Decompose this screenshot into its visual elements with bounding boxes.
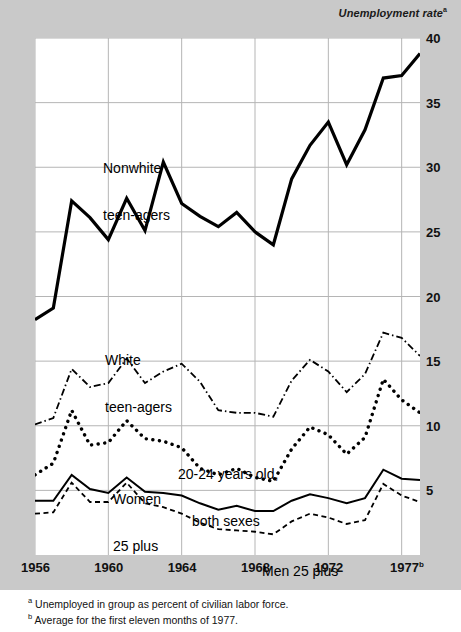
series-label-line2: teen-agers [105, 400, 172, 416]
axis-title-text: Unemployment rate [339, 7, 443, 19]
footnote-b: b Average for the first eleven months of… [28, 612, 461, 628]
y-tick-label: 35 [426, 95, 440, 110]
x-tick-label-text: 1977 [390, 560, 419, 575]
series-label-line2: 25 plus [113, 539, 161, 555]
series-line-nonwhite-teen-agers [35, 54, 420, 320]
series-label-line1: Men 25 plus [262, 564, 338, 580]
series-label-line2: both sexes [178, 514, 278, 530]
series-label-line1: Women [113, 492, 161, 508]
footnote-a-marker: a [28, 596, 32, 605]
footnotes: a Unemployed in group as percent of civi… [0, 590, 461, 632]
series-label-line1: White [105, 353, 172, 369]
footnote-a-text: Unemployed in group as percent of civili… [35, 598, 288, 610]
x-tick-label: 1956 [21, 560, 50, 575]
series-line-white-teen-agers [35, 333, 420, 425]
axis-title-footnote-marker: a [443, 6, 447, 13]
series-label-white-teenagers: White teen-agers [105, 322, 172, 447]
footnote-b-text: Average for the first eleven months of 1… [35, 613, 239, 625]
series-label-line1: Nonwhite [103, 161, 170, 177]
y-tick-label: 40 [426, 31, 440, 46]
x-tick-label: 1977b [390, 560, 424, 575]
y-tick-label: 5 [426, 483, 433, 498]
x-tick-label-text: 1956 [21, 560, 50, 575]
chart-page: Unemployment ratea 403530252015105 19561… [0, 0, 461, 632]
y-tick-label: 25 [426, 224, 440, 239]
series-label-women-25-plus: Women 25 plus [113, 461, 161, 586]
x-tick-label-text: 1964 [168, 560, 197, 575]
y-tick-label: 30 [426, 160, 440, 175]
y-tick-label: 20 [426, 289, 440, 304]
y-tick-label: 15 [426, 354, 440, 369]
axis-title: Unemployment ratea [339, 6, 447, 19]
series-label-nonwhite-teenagers: Nonwhite teen-agers [103, 130, 170, 255]
series-label-line1: 20-24 years old, [178, 467, 278, 483]
x-tick-label: 1964 [168, 560, 197, 575]
x-tick-footnote-marker: b [419, 560, 424, 569]
y-tick-label: 10 [426, 418, 440, 433]
footnote-a: a Unemployed in group as percent of civi… [28, 596, 461, 612]
series-label-line2: teen-agers [103, 208, 170, 224]
footnote-b-marker: b [28, 612, 32, 621]
